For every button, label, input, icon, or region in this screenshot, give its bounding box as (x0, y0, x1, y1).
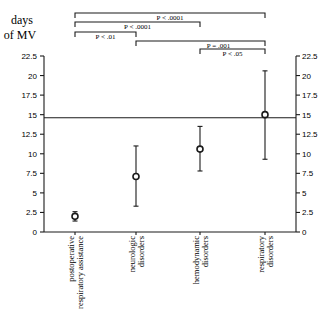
significance-bracket: P < .05 (200, 49, 265, 58)
y-tick-label-left: 20 (28, 72, 37, 81)
y-tick-label-left: 2.5 (26, 208, 38, 217)
significance-bracket: P < .01 (75, 32, 136, 41)
svg-text:disorders: disorders (200, 236, 210, 267)
chart: daysof MV P < .0001P < .0001P < .01P = .… (0, 0, 329, 331)
data-point (262, 71, 268, 159)
data-point (133, 146, 139, 206)
svg-text:P < .01: P < .01 (96, 33, 116, 41)
significance-bracket: P < .0001 (75, 13, 265, 22)
svg-text:P < .05: P < .05 (223, 50, 243, 58)
y-tick-label-right: 5 (302, 189, 307, 198)
x-category-label: neurologicdisorders (127, 236, 146, 273)
x-category-label: respiratorydisorders (256, 235, 275, 273)
y-tick-label-left: 0 (33, 228, 38, 237)
y-tick-label-left: 17.5 (21, 91, 37, 100)
axes: 002.52.5557.57.5101012.512.5151517.517.5… (21, 52, 318, 237)
y-tick-label-right: 2.5 (302, 208, 314, 217)
y-tick-label-left: 7.5 (26, 169, 38, 178)
y-tick-label-right: 17.5 (302, 91, 318, 100)
y-tick-label-left: 15 (28, 111, 37, 120)
y-tick-label-left: 22.5 (21, 52, 37, 61)
y-tick-label-left: 5 (33, 189, 38, 198)
y-tick-label-right: 7.5 (302, 169, 314, 178)
data-point (72, 212, 78, 221)
data-point (197, 126, 203, 171)
x-axis-labels: postoperativerespiratory assistanceneuro… (66, 235, 275, 309)
significance-brackets: P < .0001P < .0001P < .01P = .001P < .05 (75, 13, 265, 58)
y-tick-label-right: 0 (302, 228, 307, 237)
y-tick-label-right: 10 (302, 150, 311, 159)
y-axis-title: daysof MV (4, 13, 37, 42)
x-category-label: hemodynamicdisorders (191, 236, 210, 284)
svg-text:disorders: disorders (265, 236, 275, 267)
y-title-line: of MV (4, 28, 37, 42)
y-tick-label-left: 12.5 (21, 130, 37, 139)
significance-bracket: P < .0001 (75, 22, 200, 31)
y-tick-label-right: 22.5 (302, 52, 318, 61)
svg-text:respiratory assistance: respiratory assistance (75, 236, 85, 309)
y-title-line: days (11, 13, 33, 27)
y-tick-label-left: 10 (28, 150, 37, 159)
y-tick-label-right: 20 (302, 72, 311, 81)
x-category-label: postoperativerespiratory assistance (66, 236, 85, 309)
svg-text:P < .0001: P < .0001 (124, 23, 151, 31)
y-tick-label-right: 15 (302, 111, 311, 120)
svg-text:disorders: disorders (136, 236, 146, 267)
data-points (72, 71, 268, 221)
svg-text:P < .0001: P < .0001 (157, 14, 184, 22)
y-tick-label-right: 12.5 (302, 130, 318, 139)
